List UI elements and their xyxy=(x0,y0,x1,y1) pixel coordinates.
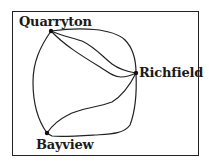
node-label-richfield: Richfield xyxy=(139,66,203,79)
node-label-bayview: Bayview xyxy=(36,138,94,151)
node-richfield-dot xyxy=(134,71,138,75)
edge-richfield-bayview-bottom xyxy=(47,73,136,136)
edge-quarryton-bayview xyxy=(33,31,51,133)
road-network-diagram: Quarryton Richfield Bayview xyxy=(0,0,209,167)
edge-richfield-bayview-upper xyxy=(47,73,136,133)
node-bayview-dot xyxy=(45,131,49,135)
edge-quarryton-richfield-middle xyxy=(51,31,136,73)
node-quarryton-dot xyxy=(49,29,53,33)
node-label-quarryton: Quarryton xyxy=(19,15,92,28)
